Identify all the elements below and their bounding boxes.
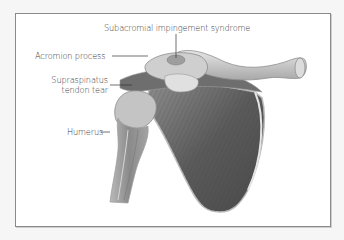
label-subacromial-impingement: Subacromial impingement syndrome	[104, 23, 250, 33]
label-supraspinatus-tendon-tear: Supraspinatus tendon tear	[38, 75, 108, 95]
label-line: tendon tear	[38, 85, 108, 95]
humerus-shaft	[110, 118, 148, 203]
label-acromion-process: Acromion process	[35, 51, 105, 61]
scapula	[148, 84, 265, 212]
label-humerus: Humerus	[67, 127, 103, 137]
shoulder-illustration	[0, 0, 344, 240]
label-line: Supraspinatus	[38, 75, 108, 85]
